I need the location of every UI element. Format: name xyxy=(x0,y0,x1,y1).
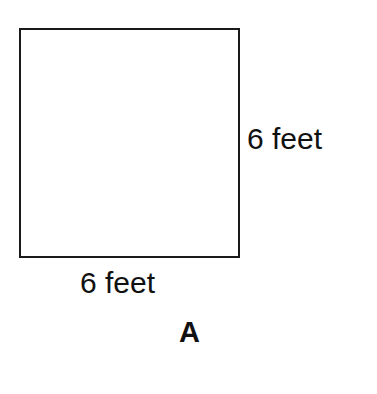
side-length-label: 6 feet xyxy=(247,124,322,154)
square-shape xyxy=(19,28,240,258)
bottom-length-label: 6 feet xyxy=(80,268,155,298)
figure-caption: A xyxy=(179,318,200,347)
